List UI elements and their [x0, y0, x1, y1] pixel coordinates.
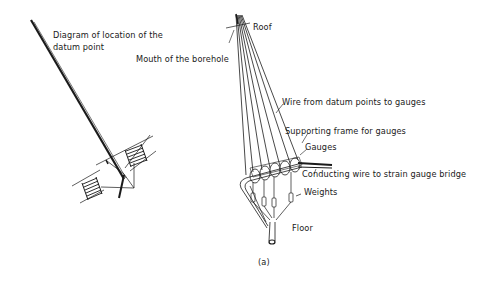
gauges-label: Gauges — [305, 142, 337, 153]
wire-label: Wire from datum points to gauges — [282, 97, 426, 108]
floor-label: Floor — [292, 223, 313, 234]
datum-diagram-title-line2: datum point — [53, 42, 104, 53]
supporting-frame-label: Supporting frame for gauges — [285, 126, 406, 137]
weights-label: Weights — [304, 187, 338, 198]
mouth-of-borehole-label: Mouth of the borehole — [136, 54, 229, 65]
datum-diagram-title-line1: Diagram of location of the — [53, 30, 163, 41]
figure-caption: (a) — [258, 257, 270, 268]
figure-canvas: Diagram of location of the datum point R… — [0, 0, 494, 287]
roof-label: Roof — [253, 22, 272, 33]
conducting-wire-label: Conducting wire to strain gauge bridge — [302, 169, 466, 180]
